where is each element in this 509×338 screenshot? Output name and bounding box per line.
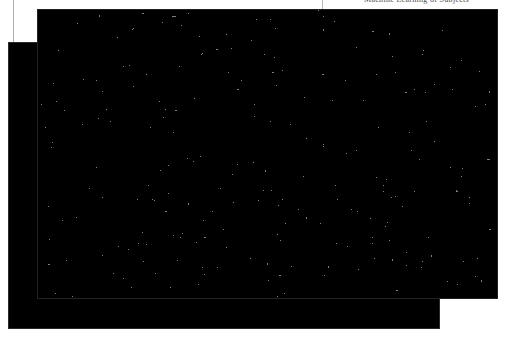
front-figure-bitmap (38, 10, 497, 298)
running-header-text: Machine Learning of Subjects (364, 0, 469, 4)
scanned-page: Machine Learning of Subjects (0, 0, 509, 338)
left-margin-rule (13, 0, 14, 43)
front-figure (37, 9, 498, 299)
header-vertical-rule (322, 0, 323, 9)
